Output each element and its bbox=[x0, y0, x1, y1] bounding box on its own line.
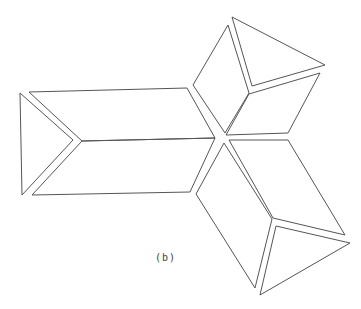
bottom-group bbox=[196, 140, 350, 295]
bottom-triangle bbox=[260, 226, 350, 295]
bottom-right-parallelogram bbox=[229, 140, 345, 235]
top-right-parallelogram bbox=[226, 73, 320, 135]
figure-label: (b) bbox=[155, 252, 176, 263]
left-group bbox=[20, 88, 215, 195]
left-lower-parallelogram bbox=[32, 138, 215, 195]
top-group bbox=[193, 17, 325, 135]
bottom-left-parallelogram bbox=[196, 143, 272, 288]
tessellation-diagram bbox=[0, 0, 361, 309]
top-left-parallelogram bbox=[193, 25, 249, 133]
left-upper-parallelogram bbox=[29, 88, 215, 141]
